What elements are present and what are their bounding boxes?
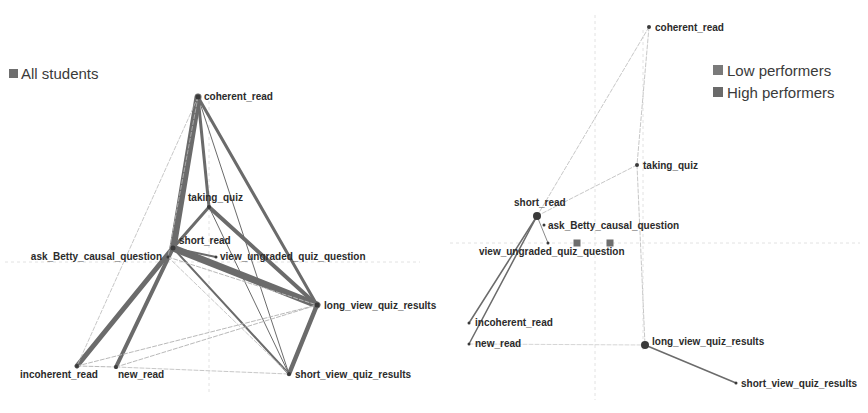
- right-edges: [469, 27, 736, 383]
- node-label: long_view_quiz_results: [324, 300, 437, 311]
- node-label: coherent_read: [204, 91, 273, 102]
- left-node-long_view_quiz_results: long_view_quiz_results: [315, 300, 437, 311]
- right-node-ask_Betty_causal_question: ask_Betty_causal_question: [543, 220, 680, 231]
- left-node-new_read: new_read: [114, 365, 164, 380]
- legend-square-low-performers: [713, 65, 723, 75]
- left-edge-ask_Betty_causal_question-to-short_view_quiz_results: [168, 257, 289, 374]
- node-label: view_ungraded_quiz_question: [479, 246, 625, 257]
- node-label: incoherent_read: [475, 317, 553, 328]
- node-label: taking_quiz: [188, 192, 243, 203]
- right-node-view_ungraded_quiz_question: view_ungraded_quiz_question: [479, 242, 625, 258]
- left-node-view_ungraded_quiz_question: view_ungraded_quiz_question: [215, 251, 366, 262]
- left-edge-incoherent_read-to-new_read: [77, 366, 116, 367]
- node-dot-icon: [468, 343, 471, 346]
- left-nodes: coherent_readtaking_quizshort_readask_Be…: [20, 91, 437, 380]
- right-edge-short_read-to-incoherent_read: [469, 216, 537, 323]
- node-label: new_read: [118, 369, 164, 380]
- right-edge-taking_quiz-to-long_view_quiz_results: [637, 165, 645, 345]
- node-dot-icon: [735, 382, 738, 385]
- node-label: ask_Betty_causal_question: [31, 251, 162, 262]
- right-node-incoherent_read: incoherent_read: [468, 317, 553, 328]
- node-dot-icon: [75, 364, 79, 368]
- left-node-short_view_quiz_results: short_view_quiz_results: [287, 369, 412, 380]
- legend-all-students: All students: [9, 65, 99, 82]
- right-node-long_view_quiz_results: long_view_quiz_results: [641, 336, 765, 349]
- node-label: coherent_read: [655, 22, 724, 33]
- node-label: taking_quiz: [643, 160, 698, 171]
- legend-performers: Low performers High performers: [713, 62, 835, 101]
- legend-square-high-performers: [713, 87, 723, 97]
- node-dot-icon: [547, 242, 550, 245]
- node-dot-icon: [533, 212, 541, 220]
- left-edge-coherent_read-to-ask_Betty_causal_question: [168, 97, 198, 257]
- left-edge-new_read-to-long_view_quiz_results: [116, 305, 317, 367]
- node-label: short_read: [179, 235, 231, 246]
- left-edge-short_read-to-short_view_quiz_results: [173, 248, 289, 374]
- node-dot-icon: [287, 372, 291, 376]
- node-dot-icon: [647, 25, 651, 29]
- node-dot-icon: [171, 246, 176, 251]
- node-dot-icon: [543, 224, 546, 227]
- node-dot-icon: [196, 95, 201, 100]
- left-node-ask_Betty_causal_question: ask_Betty_causal_question: [31, 251, 170, 262]
- left-edge-long_view_quiz_results-to-short_view_quiz_results: [289, 305, 317, 374]
- legend-label-high-performers: High performers: [727, 84, 835, 101]
- all-students-network: coherent_readtaking_quizshort_readask_Be…: [5, 65, 437, 395]
- node-label: view_ungraded_quiz_question: [220, 251, 366, 262]
- node-dot-icon: [315, 303, 320, 308]
- node-label: short_view_quiz_results: [741, 378, 858, 389]
- node-label: new_read: [475, 338, 521, 349]
- node-label: short_read: [514, 197, 566, 208]
- right-edge-long_view_quiz_results-to-short_view_quiz_results: [645, 345, 736, 383]
- right-node-taking_quiz: taking_quiz: [635, 160, 698, 171]
- right-node-short_read: short_read: [514, 197, 566, 220]
- right-node-coherent_read: coherent_read: [647, 22, 724, 33]
- node-label: short_view_quiz_results: [295, 369, 412, 380]
- node-dot-icon: [215, 256, 218, 259]
- node-dot-icon: [207, 205, 211, 209]
- node-label: incoherent_read: [20, 369, 98, 380]
- left-node-coherent_read: coherent_read: [196, 91, 273, 102]
- node-dot-icon: [641, 341, 649, 349]
- node-dot-icon: [635, 163, 639, 167]
- legend-label-all-students: All students: [21, 65, 99, 82]
- node-label: ask_Betty_causal_question: [548, 220, 679, 231]
- diagram-canvas: coherent_readtaking_quizshort_readask_Be…: [0, 0, 868, 413]
- legend-label-low-performers: Low performers: [727, 62, 831, 79]
- node-dot-icon: [468, 322, 471, 325]
- right-node-short_view_quiz_results: short_view_quiz_results: [735, 378, 858, 389]
- performer-comparison-network: coherent_readtaking_quizshort_readask_Be…: [450, 15, 860, 400]
- legend-square-all-students: [9, 69, 18, 78]
- node-dot-icon: [167, 256, 170, 259]
- left-node-taking_quiz: taking_quiz: [188, 192, 243, 209]
- node-label: long_view_quiz_results: [652, 336, 765, 347]
- right-edge-short_read-to-view_ungraded_quiz_question: [537, 216, 548, 243]
- right-node-new_read: new_read: [468, 338, 522, 349]
